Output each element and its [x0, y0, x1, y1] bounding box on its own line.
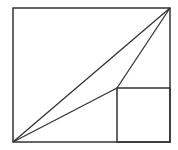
lower-triangle-edge [13, 88, 117, 142]
upper-triangle-edge [117, 8, 170, 88]
inner-square [117, 88, 170, 142]
geometry-diagram [0, 0, 178, 150]
diagonal-line [13, 8, 170, 142]
